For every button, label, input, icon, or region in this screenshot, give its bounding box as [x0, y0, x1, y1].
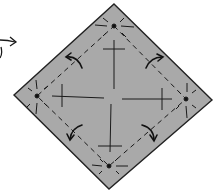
previous-step-arrow-icon	[0, 37, 16, 58]
origami-diagram	[0, 0, 217, 195]
paper-square	[14, 4, 212, 189]
